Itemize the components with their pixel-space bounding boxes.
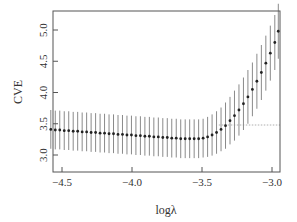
x-tick-label: −3.0 [262, 176, 282, 188]
data-point [76, 130, 79, 133]
data-point [143, 135, 146, 138]
data-point [152, 135, 155, 138]
data-point [184, 137, 187, 140]
data-point [157, 135, 160, 138]
data-point [99, 132, 102, 135]
data-point [161, 136, 164, 139]
data-point [117, 133, 120, 136]
data-point [269, 52, 272, 55]
data-point [233, 114, 236, 117]
x-axis: −4.5−4.0−3.5−3.0 [52, 167, 282, 188]
data-point [58, 129, 61, 132]
data-point [94, 131, 97, 134]
data-point [103, 132, 106, 135]
data-point [81, 130, 84, 133]
data-point [54, 129, 57, 132]
y-tick-label: 3.0 [37, 148, 49, 162]
data-point [202, 137, 205, 140]
data-point [72, 130, 75, 133]
data-point [251, 88, 254, 91]
data-point [148, 135, 151, 138]
data-point [63, 129, 66, 132]
data-point [166, 136, 169, 139]
data-point [242, 102, 245, 105]
data-point [126, 134, 129, 137]
plot-area [49, 4, 280, 158]
data-point [215, 131, 218, 134]
data-point [224, 124, 227, 127]
y-tick-label: 4.5 [37, 54, 49, 68]
data-point [220, 128, 223, 131]
y-tick-label: 5.0 [37, 23, 49, 37]
cve-error-bar-chart: −4.5−4.0−3.5−3.0 3.03.54.04.55.0 logλ CV… [0, 0, 297, 222]
data-point [247, 95, 250, 98]
x-tick-label: −4.0 [122, 176, 142, 188]
x-axis-title: logλ [155, 203, 176, 217]
data-point [85, 130, 88, 133]
data-point [135, 134, 138, 137]
data-point [211, 134, 214, 137]
data-point [277, 30, 280, 33]
data-point [188, 137, 191, 140]
data-point [90, 131, 93, 134]
data-point [121, 133, 124, 136]
data-point [206, 135, 209, 138]
data-point [238, 109, 241, 112]
data-point [255, 80, 258, 83]
data-point [179, 137, 182, 140]
data-point [197, 137, 200, 140]
data-point [229, 119, 232, 122]
data-point [260, 71, 263, 74]
y-tick-label: 4.0 [37, 85, 49, 99]
y-tick-label: 3.5 [37, 116, 49, 130]
data-point [108, 132, 111, 135]
y-axis-title: CVE [11, 80, 25, 104]
data-point [264, 62, 267, 65]
data-point [139, 134, 142, 137]
data-point [175, 137, 178, 140]
x-tick-label: −4.5 [52, 176, 72, 188]
x-tick-label: −3.5 [192, 176, 212, 188]
data-point [112, 132, 115, 135]
data-point [273, 41, 276, 44]
data-point [130, 134, 133, 137]
data-point [67, 129, 70, 132]
data-point [193, 137, 196, 140]
data-point [49, 128, 52, 131]
data-point [170, 137, 173, 140]
